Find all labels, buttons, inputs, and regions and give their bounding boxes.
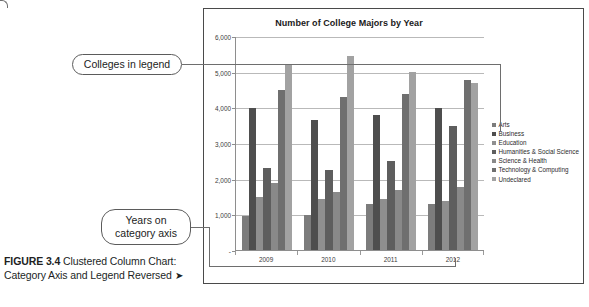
legend-item[interactable]: Arts [492, 121, 584, 128]
bar[interactable] [242, 216, 249, 250]
plot-area-wrapper: -1,0002,0003,0004,0005,0006,000 [235, 37, 484, 251]
bar[interactable] [409, 72, 416, 250]
legend-swatch-icon [492, 132, 496, 136]
bar-group-2009 [236, 37, 298, 250]
bar[interactable] [457, 187, 464, 250]
legend-swatch-icon [492, 150, 496, 154]
callout-legend-leader-corner [0, 0, 8, 8]
bar[interactable] [256, 197, 263, 251]
legend-item[interactable]: Education [492, 139, 584, 146]
category-tick [360, 251, 361, 255]
category-label-2009: 2009 [235, 251, 297, 265]
category-label-2012: 2012 [422, 251, 484, 265]
figure-number: FIGURE 3.4 [4, 255, 60, 267]
category-label-text: 2012 [446, 256, 460, 263]
category-tick [297, 251, 298, 255]
legend-item-label: Science & Health [499, 157, 547, 164]
category-tick [235, 251, 236, 255]
legend-item-label: Education [499, 139, 527, 146]
bar[interactable] [285, 65, 292, 250]
chart-title: Number of College Majors by Year [204, 18, 494, 28]
bar[interactable] [471, 83, 478, 250]
legend-item-label: Business [499, 130, 525, 137]
bar-group-2012 [422, 37, 484, 250]
y-axis-tick-label: - [229, 248, 231, 255]
bar[interactable] [449, 126, 456, 250]
bar[interactable] [366, 204, 373, 250]
callout-axis-leader-endcap [455, 258, 456, 267]
bar[interactable] [318, 199, 325, 250]
bar[interactable] [387, 161, 394, 250]
bar[interactable] [428, 204, 435, 250]
legend-item[interactable]: Humanities & Social Science [492, 148, 584, 155]
bar[interactable] [442, 201, 449, 250]
category-label-text: 2010 [321, 256, 335, 263]
callout-years-on-category-axis: Years on category axis [101, 209, 191, 245]
y-axis-tick-label: 4,000 [215, 105, 231, 112]
caption-arrow-icon: ➤ [175, 270, 183, 281]
callout-legend-leader-vertical [500, 64, 501, 132]
chart-legend[interactable]: ArtsBusinessEducationHumanities & Social… [492, 121, 584, 185]
category-label-2010: 2010 [297, 251, 359, 265]
bar[interactable] [263, 168, 270, 250]
callout-axis-leader-horizontal-2 [209, 266, 456, 267]
bar[interactable] [347, 56, 354, 250]
bar[interactable] [325, 170, 332, 250]
legend-item-label: Undeclared [499, 176, 531, 183]
y-axis-tick-label: 2,000 [215, 176, 231, 183]
legend-swatch-icon [492, 168, 496, 172]
legend-item-label: Humanities & Social Science [499, 148, 580, 155]
bar[interactable] [304, 215, 311, 250]
figure-caption: FIGURE 3.4 Clustered Column Chart: Categ… [4, 255, 194, 283]
category-label-text: 2011 [384, 256, 398, 263]
legend-item[interactable]: Undeclared [492, 176, 584, 183]
bar-group-2011 [360, 37, 422, 250]
bar-group-2010 [298, 37, 360, 250]
legend-item[interactable]: Business [492, 130, 584, 137]
legend-item[interactable]: Technology & Computing [492, 166, 584, 173]
bar[interactable] [380, 199, 387, 250]
callout-legend-leader-horizontal [182, 64, 501, 65]
callout-axis-leader-horizontal [191, 227, 210, 228]
chart-container[interactable]: Number of College Majors by Year -1,0002… [203, 8, 584, 284]
category-label-text: 2009 [259, 256, 273, 263]
y-axis-tick-label: 5,000 [215, 69, 231, 76]
bar[interactable] [373, 115, 380, 250]
category-tick [483, 251, 484, 255]
bar[interactable] [395, 190, 402, 250]
bar[interactable] [278, 90, 285, 250]
bar[interactable] [249, 108, 256, 250]
legend-item-label: Technology & Computing [499, 166, 569, 173]
y-axis-tick-label: 3,000 [215, 141, 231, 148]
legend-swatch-icon [492, 159, 496, 163]
category-axis: 2009201020112012 [235, 251, 484, 265]
legend-swatch-icon [492, 177, 496, 181]
y-axis-tick-label: 6,000 [215, 34, 231, 41]
category-tick [422, 251, 423, 255]
legend-swatch-icon [492, 123, 496, 127]
legend-item[interactable]: Science & Health [492, 157, 584, 164]
bar[interactable] [464, 80, 471, 250]
bar[interactable] [311, 120, 318, 250]
bar[interactable] [402, 94, 409, 250]
bars-layer [236, 37, 484, 250]
plot-area: -1,0002,0003,0004,0005,0006,000 [235, 37, 484, 251]
category-label-2011: 2011 [360, 251, 422, 265]
y-axis-tick-label: 1,000 [215, 212, 231, 219]
bar[interactable] [435, 108, 442, 250]
callout-colleges-in-legend: Colleges in legend [72, 54, 182, 75]
bar[interactable] [333, 192, 340, 250]
callout-axis-leader-vertical [209, 227, 210, 267]
bar[interactable] [340, 97, 347, 250]
legend-swatch-icon [492, 141, 496, 145]
bar[interactable] [271, 183, 278, 250]
